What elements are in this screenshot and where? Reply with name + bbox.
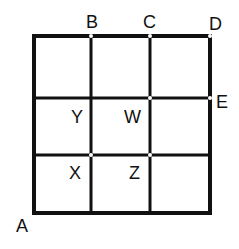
label-B: B [86, 12, 98, 32]
label-C: C [143, 12, 156, 32]
grid-lines [34, 36, 210, 213]
label-W: W [124, 107, 141, 127]
label-X: X [69, 163, 81, 183]
junction-E [208, 96, 212, 100]
label-A: A [16, 216, 28, 236]
outer-square [34, 36, 210, 213]
junction-W [148, 96, 152, 100]
label-Y: Y [71, 107, 83, 127]
junction-C [148, 34, 152, 38]
grid-diagram: B C D E Y W X Z A [0, 0, 239, 249]
junction-Z [148, 153, 152, 157]
label-D: D [209, 14, 222, 34]
junction-X [89, 153, 93, 157]
label-Z: Z [129, 163, 140, 183]
point-labels: B C D E Y W X Z A [16, 12, 228, 236]
junction-B [89, 34, 93, 38]
junction-D [208, 34, 212, 38]
label-E: E [216, 92, 228, 112]
